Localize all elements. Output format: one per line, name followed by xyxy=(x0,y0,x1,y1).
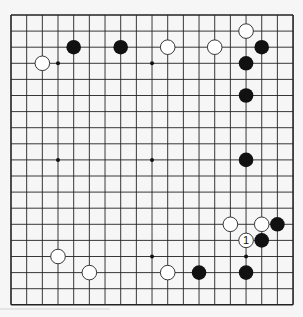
star-point xyxy=(150,255,154,259)
scan-artifact xyxy=(0,308,110,310)
black-stone xyxy=(270,217,285,232)
white-stone xyxy=(254,217,269,232)
black-stone xyxy=(239,265,254,280)
star-point xyxy=(150,61,154,65)
black-stone xyxy=(192,265,207,280)
black-stone xyxy=(239,153,254,168)
star-point xyxy=(56,61,60,65)
black-stone xyxy=(254,233,269,248)
white-stone: 1 xyxy=(239,233,254,248)
star-point xyxy=(244,255,248,259)
white-stone xyxy=(160,40,175,55)
white-stone xyxy=(223,217,238,232)
white-stone xyxy=(207,40,222,55)
black-stone xyxy=(239,56,254,71)
black-stone xyxy=(66,40,81,55)
move-number-label: 1 xyxy=(243,234,249,246)
star-point xyxy=(150,158,154,162)
black-stone xyxy=(113,40,128,55)
white-stone xyxy=(35,56,50,71)
white-stone xyxy=(82,265,97,280)
white-stone xyxy=(160,265,175,280)
stones-layer: 1 xyxy=(35,24,285,280)
go-board[interactable]: 1 xyxy=(0,0,303,317)
black-stone xyxy=(239,88,254,103)
star-point xyxy=(56,158,60,162)
white-stone xyxy=(239,24,254,39)
black-stone xyxy=(254,40,269,55)
white-stone xyxy=(51,249,66,264)
